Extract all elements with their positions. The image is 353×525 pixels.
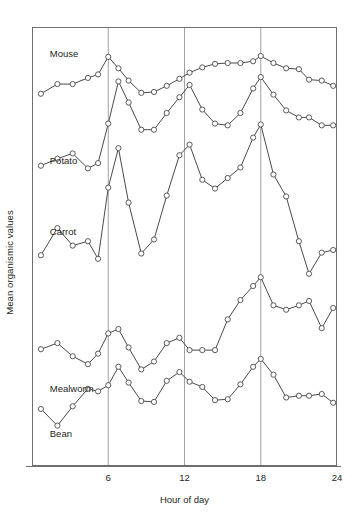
- data-point: [238, 297, 243, 302]
- data-point: [116, 364, 121, 369]
- data-point: [271, 372, 276, 377]
- data-point: [225, 175, 230, 180]
- data-point: [126, 345, 131, 350]
- data-point: [95, 389, 100, 394]
- series-label-mouse: Mouse: [50, 48, 79, 59]
- series-mouse: [38, 53, 335, 96]
- data-point: [225, 60, 230, 65]
- data-point: [187, 142, 192, 147]
- data-point: [319, 326, 324, 331]
- data-point: [271, 303, 276, 308]
- data-point: [306, 393, 311, 398]
- series-mealworm: [38, 275, 335, 372]
- data-point: [251, 59, 256, 64]
- data-point: [331, 123, 336, 128]
- data-point: [70, 404, 75, 409]
- data-point: [177, 95, 182, 100]
- data-point: [85, 166, 90, 171]
- series-label-carrot: Carrot: [50, 226, 76, 237]
- data-point: [251, 86, 256, 91]
- x-axis-label: Hour of day: [32, 494, 337, 505]
- data-point: [85, 239, 90, 244]
- series-label-bean: Bean: [50, 428, 72, 439]
- data-point: [177, 76, 182, 81]
- data-point: [151, 237, 156, 242]
- data-point: [200, 177, 205, 182]
- data-point: [212, 398, 217, 403]
- data-point: [85, 362, 90, 367]
- series-line: [41, 77, 333, 168]
- data-point: [225, 397, 230, 402]
- data-point: [284, 395, 289, 400]
- plot-area: [32, 27, 337, 466]
- data-point: [225, 317, 230, 322]
- data-point: [177, 335, 182, 340]
- data-point: [319, 78, 324, 83]
- data-point: [164, 193, 169, 198]
- data-point: [106, 383, 111, 388]
- data-point: [251, 364, 256, 369]
- series-line: [41, 124, 333, 273]
- data-point: [164, 340, 169, 345]
- data-point: [238, 110, 243, 115]
- series-label-potato: Potato: [50, 155, 77, 166]
- data-point: [200, 65, 205, 70]
- data-point: [116, 146, 121, 151]
- data-point: [238, 60, 243, 65]
- data-point: [271, 92, 276, 97]
- data-point: [238, 382, 243, 387]
- data-point: [126, 100, 131, 105]
- data-point: [106, 185, 111, 190]
- series-label-mealworm: Mealworm: [50, 383, 94, 394]
- data-point: [200, 348, 205, 353]
- data-point: [319, 123, 324, 128]
- data-point: [106, 121, 111, 126]
- data-point: [164, 110, 169, 115]
- x-axis-line: [26, 466, 341, 476]
- data-point: [212, 121, 217, 126]
- series-carrot: [38, 122, 335, 276]
- data-point: [251, 135, 256, 140]
- data-point: [306, 271, 311, 276]
- data-point: [306, 298, 311, 303]
- data-point: [151, 359, 156, 364]
- data-point: [38, 347, 43, 352]
- data-point: [116, 79, 121, 84]
- data-point: [70, 243, 75, 248]
- data-point: [95, 72, 100, 77]
- data-point: [284, 66, 289, 71]
- data-point: [225, 123, 230, 128]
- data-point: [271, 172, 276, 177]
- data-point: [187, 348, 192, 353]
- data-point: [200, 384, 205, 389]
- y-axis-label: Mean organismic values: [0, 0, 18, 525]
- data-point: [212, 186, 217, 191]
- data-point: [164, 378, 169, 383]
- data-point: [284, 194, 289, 199]
- data-point: [55, 340, 60, 345]
- data-point: [151, 89, 156, 94]
- data-point: [126, 380, 131, 385]
- data-point: [331, 400, 336, 405]
- data-point: [116, 66, 121, 71]
- data-point: [70, 354, 75, 359]
- data-point: [177, 369, 182, 374]
- data-point: [284, 307, 289, 312]
- series-line: [41, 277, 333, 369]
- data-point: [212, 348, 217, 353]
- data-point: [70, 81, 75, 86]
- data-point: [38, 406, 43, 411]
- data-point: [306, 77, 311, 82]
- data-point: [187, 379, 192, 384]
- data-point: [95, 351, 100, 356]
- data-point: [106, 331, 111, 336]
- data-point: [139, 127, 144, 132]
- data-point: [212, 61, 217, 66]
- data-point: [38, 253, 43, 258]
- data-point: [187, 82, 192, 87]
- data-point: [200, 107, 205, 112]
- plot-svg: [32, 27, 337, 466]
- data-point: [296, 67, 301, 72]
- data-point: [151, 399, 156, 404]
- data-point: [85, 75, 90, 80]
